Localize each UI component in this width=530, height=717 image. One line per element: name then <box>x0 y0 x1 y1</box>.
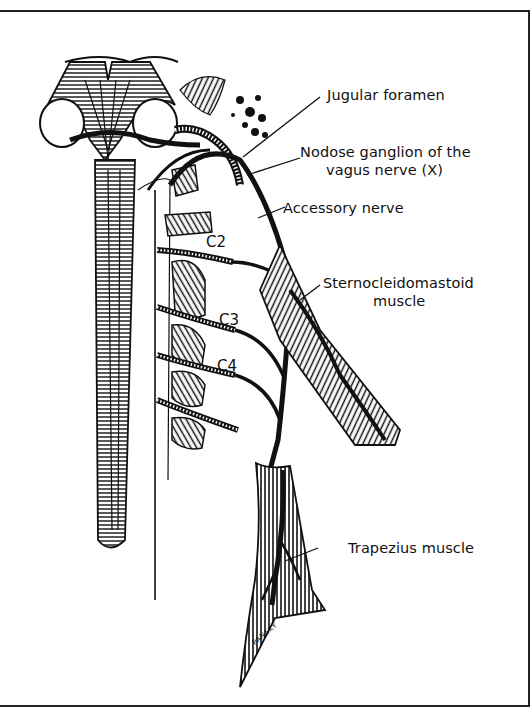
label-jugular-foramen: Jugular foramen <box>327 86 445 104</box>
anatomy-illustration <box>0 0 530 717</box>
label-nodose-ganglion-line1: Nodose ganglion of the <box>300 143 471 161</box>
level-c4: C4 <box>217 357 237 375</box>
label-sternocleidomastoid-line1: Sternocleidomastoid <box>323 274 474 292</box>
label-trapezius-muscle: Trapezius muscle <box>348 539 474 557</box>
label-accessory-nerve: Accessory nerve <box>283 199 404 217</box>
trapezius-muscle <box>240 463 325 687</box>
spinal-cord <box>95 160 170 600</box>
level-c2: C2 <box>206 233 226 251</box>
level-c3: C3 <box>219 311 239 329</box>
label-sternocleidomastoid-line2: muscle <box>373 292 425 310</box>
brainstem <box>40 57 200 160</box>
label-nodose-ganglion-line2: vagus nerve (X) <box>326 161 443 179</box>
